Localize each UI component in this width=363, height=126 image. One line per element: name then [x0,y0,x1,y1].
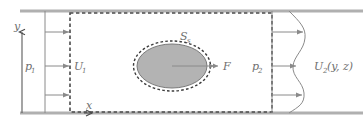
figure-control-volume-duct-flow: y x p 1 U 1 S s F p 2 U 2 (y, z) [0,0,363,126]
label-force: F [222,60,231,73]
label-outlet-velocity: U 2 (y, z) [314,60,353,75]
label-outlet-pressure-subscript: 2 [257,67,263,75]
inlet-velocity-arrows [45,32,69,95]
label-outlet-velocity-arguments: (y, z) [327,60,353,73]
label-inlet-velocity-subscript: 1 [82,67,86,75]
label-inlet-pressure-subscript: 1 [31,67,35,75]
diagram-canvas: y x p 1 U 1 S s F p 2 U 2 (y, z) [0,0,363,126]
label-inlet-pressure: p 1 [25,60,35,75]
label-body-surface-subscript: s [187,37,191,45]
label-x-axis: x [86,99,93,112]
label-outlet-pressure: p 2 [252,60,263,75]
label-y-axis: y [13,20,21,33]
outlet-velocity-arrows [272,32,303,95]
label-body-surface: S s [180,30,191,45]
label-inlet-velocity: U 1 [74,60,86,75]
outlet-velocity-profile-curve [289,11,305,113]
